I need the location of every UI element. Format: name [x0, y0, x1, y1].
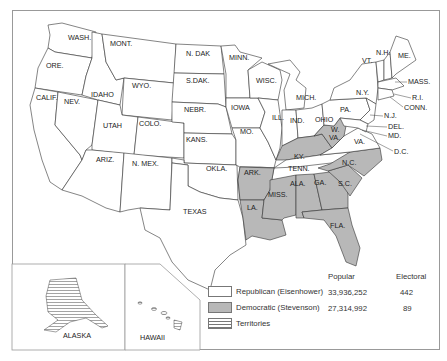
legend-row-territories: Territories [208, 318, 270, 329]
label-kans: KANS. [186, 135, 208, 144]
label-texas: TEXAS [183, 207, 207, 216]
label-conn: CONN. [404, 103, 427, 112]
legend-label: Republican (Eisenhower) [236, 287, 323, 296]
label-colo: COLO. [139, 119, 161, 128]
legend-row-republican: Republican (Eisenhower) [208, 286, 323, 297]
label-ariz: ARIZ. [96, 155, 114, 164]
label-nev: NEV. [64, 97, 80, 106]
label-del: DEL. [388, 122, 404, 131]
label-sdak: S.DAK. [186, 76, 210, 85]
republican-swatch [208, 286, 232, 297]
label-ndak: N. DAK [186, 49, 210, 58]
label-wva-2: VA. [329, 133, 340, 142]
label-me: ME. [398, 51, 411, 60]
label-utah: UTAH [103, 121, 122, 130]
label-vt: VT. [362, 56, 372, 65]
label-wyo: WYO. [132, 81, 151, 90]
label-mich: MICH. [296, 93, 316, 102]
label-alaska: ALASKA [63, 331, 91, 340]
legend-row-democratic: Democratic (Stevenson) [208, 302, 320, 313]
legend-header-electoral: Electoral [396, 272, 426, 281]
label-nmex: N. MEX. [132, 159, 159, 168]
label-nebr: NEBR. [184, 105, 206, 114]
legend-label: Democratic (Stevenson) [236, 303, 320, 312]
label-dc: D.C. [394, 147, 408, 156]
label-ind: IND. [290, 116, 304, 125]
legend-header-popular: Popular [328, 272, 355, 281]
label-ga: GA. [314, 178, 326, 187]
label-ohio: OHIO [315, 115, 334, 124]
label-tenn: TENN. [288, 164, 310, 173]
democratic-popular: 27,314,992 [328, 304, 367, 313]
republican-popular: 33,936,252 [328, 288, 367, 297]
label-ny: N.Y. [356, 88, 369, 97]
label-md: MD. [388, 131, 401, 140]
label-pa: PA. [340, 105, 351, 114]
territories-swatch [208, 318, 232, 329]
label-calif: CALIF. [36, 93, 58, 102]
label-ri: R.I. [412, 93, 423, 102]
label-hawaii: HAWAII [140, 333, 165, 342]
label-ill: ILL. [272, 113, 284, 122]
label-ore: ORE. [46, 61, 64, 70]
label-ark: ARK. [244, 168, 261, 177]
legend: Popular Electoral Republican (Eisenhower… [200, 270, 438, 350]
label-wash: WASH. [68, 33, 91, 42]
label-okla: OKLA. [206, 164, 227, 173]
label-miss: MISS. [268, 190, 288, 199]
legend-label: Territories [236, 319, 270, 328]
label-va: VA. [354, 137, 365, 146]
label-iowa: IOWA [231, 103, 250, 112]
label-nc: N.C. [342, 158, 356, 167]
democratic-electoral: 89 [403, 304, 412, 313]
label-mont: MONT. [110, 39, 132, 48]
republican-electoral: 442 [400, 288, 413, 297]
label-mo: MO. [240, 127, 254, 136]
label-ky: KY. [294, 152, 305, 161]
label-nj: N.J. [384, 111, 397, 120]
democratic-swatch [208, 302, 232, 313]
label-wisc: WISC. [256, 76, 277, 85]
label-mass: MASS. [408, 77, 430, 86]
label-la: LA. [247, 203, 258, 212]
label-fla: FLA. [330, 221, 345, 230]
label-minn: MINN. [229, 53, 249, 62]
label-sc: S.C. [338, 179, 352, 188]
label-idaho: IDAHO [91, 90, 114, 99]
label-ala: ALA. [290, 179, 306, 188]
label-nh: N.H. [376, 48, 390, 57]
